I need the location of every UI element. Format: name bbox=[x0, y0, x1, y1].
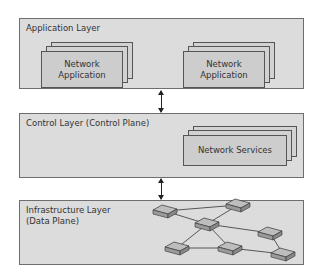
network-switch-graph bbox=[0, 0, 320, 275]
switch-icons bbox=[153, 199, 295, 261]
